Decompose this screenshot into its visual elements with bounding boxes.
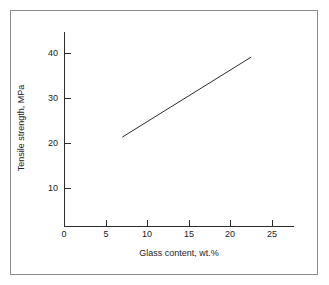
data-series-layer — [0, 0, 329, 285]
plot-area: 10203040 0510152025 Glass content, wt.% … — [0, 0, 329, 285]
data-series-line — [122, 57, 251, 137]
y-axis-title: Tensile strength, MPa — [16, 63, 26, 193]
figure-root: 10203040 0510152025 Glass content, wt.% … — [0, 0, 329, 285]
x-axis-title: Glass content, wt.% — [64, 248, 294, 258]
series-group — [122, 57, 251, 137]
